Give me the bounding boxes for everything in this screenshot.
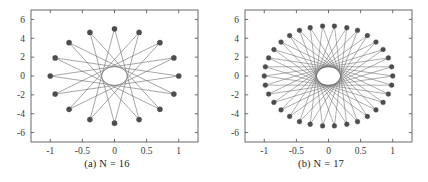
data-point (374, 40, 379, 45)
x-tick-label: 0 (112, 146, 117, 156)
data-point (53, 91, 58, 96)
data-point (262, 74, 267, 79)
x-tick-label: -0.5 (289, 146, 304, 156)
data-point (287, 114, 292, 119)
data-point (53, 55, 58, 60)
data-point (308, 122, 313, 127)
data-point (308, 25, 313, 30)
data-point (112, 26, 117, 31)
star-polygon-plot-a: -1-0.500.516420-2-4-6 (0, 0, 214, 182)
data-point (171, 55, 176, 60)
plot-panel-b: -1-0.500.516420-2-4-6 (b) N = 17 (214, 0, 428, 182)
data-point (389, 83, 394, 88)
data-point (87, 30, 92, 35)
y-tick-label: -6 (17, 128, 25, 138)
data-point (279, 108, 284, 113)
data-point (263, 64, 268, 69)
x-tick-label: 0.5 (355, 146, 367, 156)
data-point (355, 119, 360, 124)
data-point (66, 40, 71, 45)
data-point (287, 33, 292, 38)
data-point (137, 117, 142, 122)
data-point (381, 100, 386, 105)
x-tick-label: 0.5 (141, 146, 153, 156)
data-point (176, 73, 181, 78)
plot-panel-a: -1-0.500.516420-2-4-6 (a) N = 16 (0, 0, 214, 182)
x-tick-label: -1 (46, 146, 54, 156)
data-point (390, 74, 395, 79)
x-tick-label: 0 (326, 146, 331, 156)
data-point (365, 114, 370, 119)
panel-caption-a: (a) N = 16 (0, 158, 214, 169)
y-tick-label: -2 (17, 90, 25, 100)
data-point (381, 47, 386, 52)
data-point (355, 28, 360, 33)
data-point (171, 91, 176, 96)
y-tick-label: 4 (20, 34, 25, 44)
data-point (279, 40, 284, 45)
y-tick-label: 6 (234, 15, 239, 25)
y-tick-label: -4 (17, 109, 25, 119)
data-point (320, 123, 325, 128)
x-tick-label: -1 (260, 146, 268, 156)
figure-container: -1-0.500.516420-2-4-6 (a) N = 16 -1-0.50… (0, 0, 428, 182)
y-tick-label: 6 (20, 15, 25, 25)
data-point (112, 121, 117, 126)
data-point (297, 28, 302, 33)
data-point (272, 100, 277, 105)
x-tick-label: 1 (390, 146, 395, 156)
data-point (389, 64, 394, 69)
data-point (48, 73, 53, 78)
data-point (365, 33, 370, 38)
data-point (332, 123, 337, 128)
y-tick-label: -4 (231, 109, 239, 119)
data-point (297, 119, 302, 124)
x-tick-label: -0.5 (75, 146, 90, 156)
data-point (332, 24, 337, 29)
data-point (157, 40, 162, 45)
data-point (272, 47, 277, 52)
y-tick-label: 0 (234, 71, 239, 81)
data-point (263, 83, 268, 88)
x-tick-label: 1 (176, 146, 181, 156)
y-tick-label: -2 (231, 90, 239, 100)
data-point (87, 117, 92, 122)
data-point (266, 56, 271, 61)
data-point (157, 107, 162, 112)
data-point (137, 30, 142, 35)
y-tick-label: -6 (231, 128, 239, 138)
data-point (344, 122, 349, 127)
star-polygon-plot-b: -1-0.500.516420-2-4-6 (214, 0, 428, 182)
data-point (344, 25, 349, 30)
y-tick-label: 2 (234, 52, 239, 62)
y-tick-label: 2 (20, 52, 25, 62)
data-point (386, 92, 391, 97)
data-point (374, 108, 379, 113)
y-tick-label: 4 (234, 34, 239, 44)
data-point (386, 56, 391, 61)
panel-caption-b: (b) N = 17 (214, 158, 428, 169)
data-point (266, 92, 271, 97)
y-tick-label: 0 (20, 71, 25, 81)
plot-frame-b (245, 10, 412, 142)
data-point (320, 24, 325, 29)
data-point (66, 107, 71, 112)
